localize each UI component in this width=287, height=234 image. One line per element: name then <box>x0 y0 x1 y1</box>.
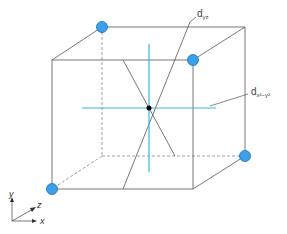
center-atom <box>147 106 152 111</box>
x-axis-label: x <box>39 216 45 226</box>
cube-diagram: dyz dx²−y² y z x <box>0 0 287 234</box>
z-axis-label: z <box>36 200 42 210</box>
y-axis-label: y <box>8 189 14 199</box>
axis-triad: y z x <box>8 189 45 226</box>
atom-back-bottom-right <box>240 151 251 162</box>
dyz-leader <box>190 17 196 22</box>
dx2y2-label: dx²−y² <box>251 86 270 98</box>
atom-front-bottom-left <box>47 184 58 195</box>
x-arrow-icon <box>32 219 37 223</box>
orbital-dyz <box>123 22 190 189</box>
z-arrow-icon <box>30 207 36 212</box>
atom-back-top-left <box>97 22 108 33</box>
dyz-label: dyz <box>197 8 209 20</box>
atom-front-top-right <box>188 55 199 66</box>
dx2y2-leader <box>210 94 248 106</box>
